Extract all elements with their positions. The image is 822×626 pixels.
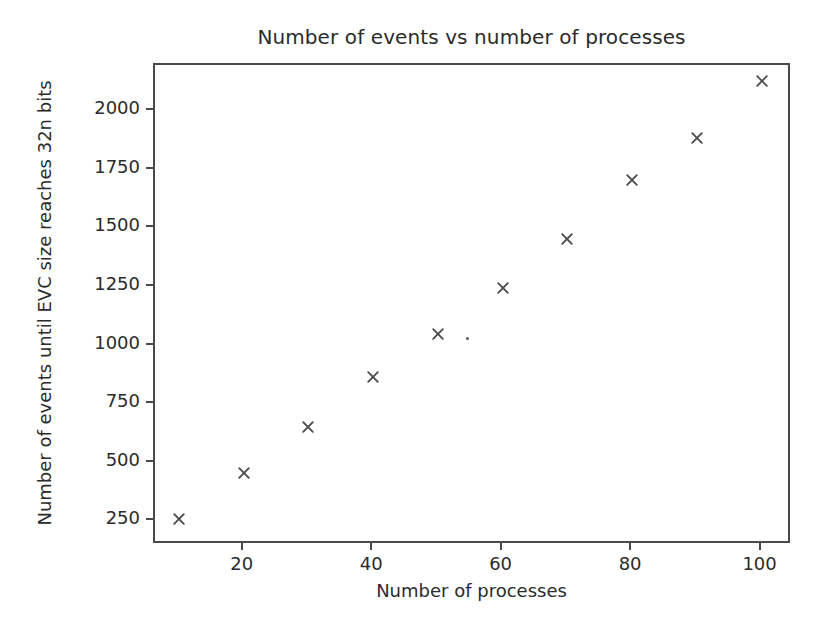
y-tick-label: 1000 bbox=[78, 332, 140, 353]
x-tick-mark bbox=[759, 543, 761, 550]
data-point-marker bbox=[559, 231, 575, 247]
x-tick-mark bbox=[370, 543, 372, 550]
data-point-marker bbox=[430, 326, 446, 342]
data-point-marker bbox=[495, 280, 511, 296]
chart-title: Number of events vs number of processes bbox=[153, 25, 790, 49]
x-tick-mark bbox=[629, 543, 631, 550]
data-point-marker bbox=[624, 172, 640, 188]
y-tick-mark bbox=[146, 518, 153, 520]
y-tick-mark bbox=[146, 460, 153, 462]
x-axis-label: Number of processes bbox=[153, 580, 790, 601]
data-point-marker bbox=[754, 73, 770, 89]
x-tick-mark bbox=[500, 543, 502, 550]
y-tick-mark bbox=[146, 343, 153, 345]
x-tick-label: 100 bbox=[742, 553, 776, 574]
x-tick-label: 60 bbox=[489, 553, 512, 574]
y-tick-mark bbox=[146, 284, 153, 286]
x-tick-label: 80 bbox=[619, 553, 642, 574]
y-tick-label: 2000 bbox=[78, 97, 140, 118]
y-tick-label: 1250 bbox=[78, 273, 140, 294]
y-tick-label: 250 bbox=[78, 507, 140, 528]
y-tick-mark bbox=[146, 225, 153, 227]
y-tick-label: 750 bbox=[78, 390, 140, 411]
data-point-marker bbox=[171, 511, 187, 527]
y-tick-label: 1750 bbox=[78, 156, 140, 177]
plot-frame bbox=[153, 63, 790, 543]
y-axis-label: Number of events until EVC size reaches … bbox=[34, 63, 64, 543]
data-point-marker bbox=[236, 465, 252, 481]
x-tick-label: 40 bbox=[360, 553, 383, 574]
y-tick-mark bbox=[146, 401, 153, 403]
x-tick-label: 20 bbox=[230, 553, 253, 574]
data-point-marker bbox=[689, 130, 705, 146]
y-tick-label: 500 bbox=[78, 449, 140, 470]
chart-figure: Number of events vs number of processes … bbox=[0, 0, 822, 626]
data-point-marker bbox=[300, 419, 316, 435]
data-point-marker bbox=[365, 369, 381, 385]
plot-area bbox=[155, 65, 788, 541]
y-tick-label: 1500 bbox=[78, 214, 140, 235]
x-tick-mark bbox=[241, 543, 243, 550]
scan-speck-artifact bbox=[466, 337, 469, 340]
y-tick-mark bbox=[146, 167, 153, 169]
y-tick-mark bbox=[146, 108, 153, 110]
